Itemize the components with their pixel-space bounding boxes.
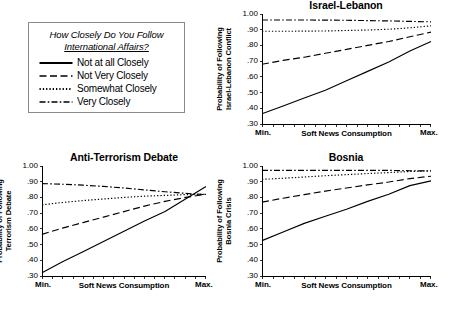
legend-line-dashed-icon: [39, 71, 73, 81]
axis-lines: [263, 166, 432, 277]
x-axis-min-label: Min.: [255, 280, 271, 289]
y-axis-label-line2: Bosnia Crisis: [224, 197, 233, 244]
legend-item-dotted: Somewhat Closely: [39, 82, 184, 95]
y-tick-label: .40: [231, 103, 258, 112]
y-tick-label: .70: [11, 208, 38, 217]
plot-area-israel-lebanon: [262, 14, 433, 126]
y-tick-label: .60: [11, 224, 38, 233]
y-tick-label: .30: [231, 271, 258, 280]
y-tick-label: .40: [231, 255, 258, 264]
y-tick-label: .50: [11, 240, 38, 249]
legend-item-dashed: Not Very Closely: [39, 69, 184, 82]
series-line-dashed: [262, 32, 431, 64]
series-line-dashdot: [42, 184, 206, 195]
legend-line-dashdot-icon: [39, 97, 73, 107]
y-tick-label: .80: [231, 40, 258, 49]
legend-line-dotted-icon: [39, 84, 73, 94]
x-axis-label-anti-terrorism-debate: Soft News Consumption: [72, 281, 176, 290]
series-line-dashdot: [262, 20, 431, 22]
series-line-dashed: [42, 194, 206, 234]
y-tick-label: .60: [231, 224, 258, 233]
y-tick-label: .30: [231, 119, 258, 128]
series-line-solid: [262, 42, 431, 114]
legend-line-solid-icon: [39, 58, 73, 68]
x-axis-label-bosnia: Soft News Consumption: [295, 281, 399, 290]
y-tick-label: 1.00: [11, 161, 38, 170]
y-tick-label: 1.00: [231, 161, 258, 170]
y-tick-label: .40: [11, 255, 38, 264]
legend-item-label: Not Very Closely: [77, 70, 148, 81]
legend-title-line1: How Closely Do You Follow: [49, 29, 163, 40]
legend-items: Not at all CloselyNot Very CloselySomewh…: [29, 56, 184, 108]
y-tick-label: .80: [11, 192, 38, 201]
y-tick-label: .90: [11, 177, 38, 186]
series-line-dotted: [262, 26, 431, 32]
legend-title: How Closely Do You Follow International …: [29, 23, 184, 52]
y-tick-label: .70: [231, 56, 258, 65]
y-tick-label: .90: [231, 25, 258, 34]
plot-area-bosnia: [262, 166, 433, 278]
axis-lines: [263, 14, 432, 125]
series-line-dashed: [262, 176, 431, 202]
x-axis-label-israel-lebanon: Soft News Consumption: [295, 129, 399, 138]
chart-title-israel-lebanon: Israel-Lebanon: [246, 0, 446, 11]
legend-item-label: Somewhat Closely: [77, 83, 157, 94]
y-tick-label: .80: [231, 192, 258, 201]
chart-title-anti-terrorism-debate: Anti-Terrorism Debate: [24, 151, 224, 163]
legend-item-label: Very Closely: [77, 96, 130, 107]
x-axis-min-label: Min.: [35, 280, 51, 289]
series-line-dotted: [42, 194, 206, 205]
series-line-solid: [262, 181, 431, 241]
x-axis-max-label: Max.: [420, 280, 438, 289]
y-tick-label: .70: [231, 208, 258, 217]
x-axis-max-label: Max.: [195, 280, 213, 289]
legend-box: How Closely Do You Follow International …: [28, 22, 185, 113]
legend-title-line2: International Affairs?: [64, 41, 149, 52]
chart-title-bosnia: Bosnia: [246, 151, 446, 163]
series-line-dotted: [262, 171, 431, 180]
plot-area-anti-terrorism-debate: [42, 166, 208, 278]
x-axis-max-label: Max.: [420, 128, 438, 137]
series-line-dashdot: [262, 170, 431, 171]
legend-item-solid: Not at all Closely: [39, 56, 184, 69]
y-tick-label: .90: [231, 177, 258, 186]
series-line-solid: [42, 186, 206, 272]
y-tick-label: .50: [231, 88, 258, 97]
legend-item-dashdot: Very Closely: [39, 95, 184, 108]
y-tick-label: .60: [231, 72, 258, 81]
x-axis-min-label: Min.: [255, 128, 271, 137]
legend-item-label: Not at all Closely: [77, 57, 148, 68]
y-tick-label: .30: [11, 271, 38, 280]
y-tick-label: .50: [231, 240, 258, 249]
y-tick-label: 1.00: [231, 9, 258, 18]
